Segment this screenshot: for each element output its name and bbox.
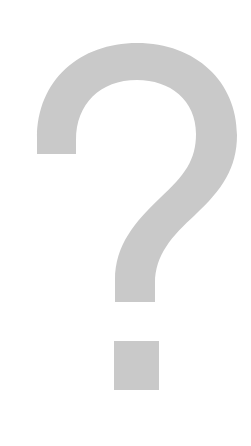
question-mark-hook <box>37 43 237 302</box>
question-mark-dot <box>114 341 159 390</box>
question-mark-icon <box>0 0 251 446</box>
question-mark-glyph <box>37 43 237 390</box>
